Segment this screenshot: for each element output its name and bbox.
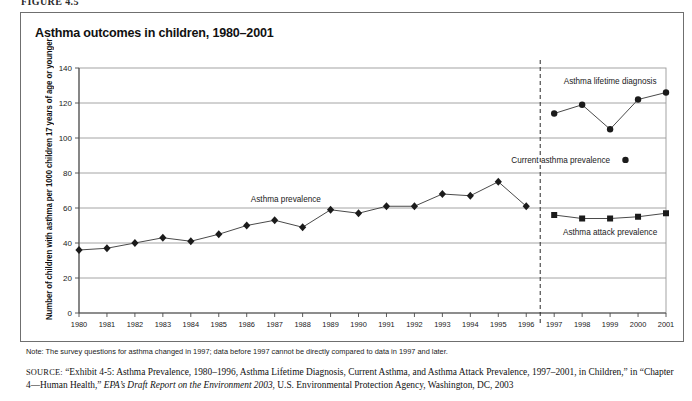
y-axis-tick-label: 80 <box>63 169 72 178</box>
x-axis-tick-label: 1999 <box>602 320 618 329</box>
x-axis-tick-label: 1991 <box>378 320 394 329</box>
data-point-diamond[interactable] <box>243 222 250 230</box>
x-axis-tick-label: 1989 <box>322 320 338 329</box>
y-axis-tick-label: 100 <box>59 134 73 143</box>
data-point-diamond[interactable] <box>327 206 334 214</box>
x-axis-tick-label: 1988 <box>294 320 310 329</box>
figure-page: FIGURE 4.5 Asthma outcomes in children, … <box>0 0 692 401</box>
x-axis-tick-label: 1984 <box>183 320 199 329</box>
x-axis-tick-label: 1996 <box>518 320 534 329</box>
annotation-asthma-prevalence: Asthma prevalence <box>251 195 322 204</box>
y-axis-tick-label: 40 <box>63 239 72 248</box>
data-point-diamond[interactable] <box>411 202 418 210</box>
annotation-current-prevalence: Current asthma prevalence <box>511 156 610 165</box>
series-line <box>79 182 526 250</box>
data-point-diamond[interactable] <box>215 230 222 238</box>
annotation-attack-prevalence: Asthma attack prevalence <box>563 228 658 237</box>
data-point-diamond[interactable] <box>187 237 194 245</box>
data-point-diamond[interactable] <box>159 234 166 242</box>
x-axis-tick-label: 1985 <box>211 320 227 329</box>
data-point-diamond[interactable] <box>271 216 278 224</box>
figure-number-label: FIGURE 4.5 <box>21 0 79 7</box>
y-axis-tick-label: 140 <box>59 64 73 73</box>
figure-container: Asthma outcomes in children, 1980–2001 N… <box>20 12 684 342</box>
data-point-square[interactable] <box>607 216 613 222</box>
plot-frame <box>79 68 666 313</box>
x-axis-tick-label: 1994 <box>462 320 478 329</box>
series-line <box>554 93 666 130</box>
plot-area: Number of children with asthma per 1000 … <box>21 13 685 343</box>
data-point-square[interactable] <box>663 210 669 216</box>
x-axis-tick-label: 2000 <box>630 320 646 329</box>
x-axis-tick-label: 2001 <box>658 320 674 329</box>
y-axis-tick-label: 20 <box>63 274 72 283</box>
data-point-square[interactable] <box>635 214 641 220</box>
y-axis-tick-label: 60 <box>63 204 72 213</box>
data-point-circle[interactable] <box>579 102 585 108</box>
x-axis-tick-label: 1998 <box>574 320 590 329</box>
chart-source: SOURCE: “Exhibit 4-5: Asthma Prevalence,… <box>26 366 678 391</box>
y-axis-tick-label: 0 <box>68 309 73 318</box>
data-point-diamond[interactable] <box>439 190 446 198</box>
chart-note: Note: The survey questions for asthma ch… <box>26 347 666 357</box>
x-axis-tick-label: 1981 <box>99 320 115 329</box>
data-point-square[interactable] <box>579 216 585 222</box>
x-axis-tick-label: 1990 <box>350 320 366 329</box>
data-point-diamond[interactable] <box>299 223 306 231</box>
source-italic-title: EPA’s Draft Report on the Environment 20… <box>104 380 273 390</box>
data-point-circle[interactable] <box>551 110 557 116</box>
x-axis-tick-label: 1987 <box>266 320 282 329</box>
data-point-circle[interactable] <box>607 126 613 132</box>
data-point-diamond[interactable] <box>383 202 390 210</box>
data-point-diamond[interactable] <box>131 239 138 247</box>
x-axis-tick-label: 1992 <box>406 320 422 329</box>
x-axis-tick-label: 1995 <box>490 320 506 329</box>
series-circle <box>551 89 669 132</box>
data-point-diamond[interactable] <box>355 209 362 217</box>
y-axis-tick-label: 120 <box>59 99 73 108</box>
chart-svg: 0204060801001201401980198119821983198419… <box>21 13 685 343</box>
data-point-diamond[interactable] <box>103 244 110 252</box>
data-point-diamond[interactable] <box>467 192 474 200</box>
source-prefix: SOURCE: <box>26 368 63 377</box>
data-point-square[interactable] <box>551 212 557 218</box>
x-axis-tick-label: 1993 <box>434 320 450 329</box>
data-point-circle[interactable] <box>635 96 641 102</box>
source-line2: , U.S. Environmental Protection Agency, … <box>273 380 514 390</box>
x-axis-tick-label: 1997 <box>546 320 562 329</box>
x-axis-tick-label: 1983 <box>155 320 171 329</box>
data-point-diamond[interactable] <box>75 246 82 254</box>
x-axis-tick-label: 1986 <box>238 320 254 329</box>
x-axis-tick-label: 1982 <box>127 320 143 329</box>
legend-marker-current-prevalence <box>622 157 628 163</box>
data-point-circle[interactable] <box>663 89 669 95</box>
x-axis-tick-label: 1980 <box>71 320 87 329</box>
annotation-lifetime-diagnosis: Asthma lifetime diagnosis <box>564 77 657 86</box>
series-square <box>551 210 669 221</box>
